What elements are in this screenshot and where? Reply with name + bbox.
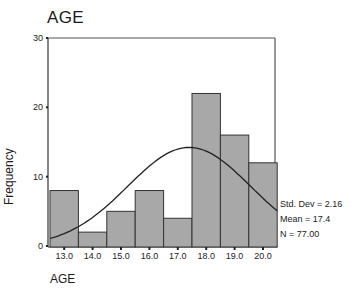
y-tick [46, 245, 48, 247]
x-tick-label: 14.0 [84, 251, 102, 261]
x-tick-label: 16.0 [141, 251, 159, 261]
x-tick [63, 247, 65, 250]
mean-annotation: Mean = 17.4 [280, 214, 330, 224]
histogram-bar [78, 232, 106, 247]
y-tick-label: 30 [33, 33, 43, 43]
histogram-bar [249, 163, 277, 247]
x-tick-label: 13.0 [55, 251, 73, 261]
histogram-bar [50, 191, 78, 247]
x-tick [92, 247, 94, 250]
x-tick [262, 247, 264, 250]
x-tick [177, 247, 179, 250]
histogram-bar [164, 218, 192, 247]
x-tick-label: 20.0 [254, 251, 272, 261]
y-tick [46, 176, 48, 178]
x-tick-label: 19.0 [226, 251, 244, 261]
histogram-bar [135, 191, 163, 247]
y-tick [46, 37, 48, 39]
x-tick-label: 15.0 [112, 251, 130, 261]
histogram-bar [107, 211, 135, 247]
n-annotation: N = 77.00 [280, 229, 319, 239]
x-tick [234, 247, 236, 250]
y-tick-label: 10 [33, 172, 43, 182]
y-tick-label: 0 [38, 241, 43, 251]
x-tick [120, 247, 122, 250]
x-tick [148, 247, 150, 250]
x-tick [205, 247, 207, 250]
x-tick-label: 17.0 [169, 251, 187, 261]
y-tick-label: 20 [33, 102, 43, 112]
x-tick-label: 18.0 [197, 251, 215, 261]
histogram-bar [192, 93, 220, 247]
histogram-bar [220, 135, 248, 247]
y-tick [46, 106, 48, 108]
histogram-plot: 010203013.014.015.016.017.018.019.020.0 [0, 0, 360, 299]
std-dev-annotation: Std. Dev = 2.16 [280, 199, 342, 209]
